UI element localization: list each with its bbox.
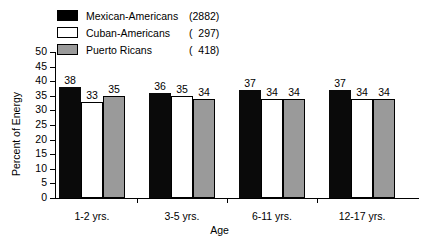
y-axis-tick: 25 — [50, 125, 55, 126]
x-axis-tick — [317, 199, 318, 203]
x-axis-category-label: 12-17 yrs. — [339, 210, 386, 222]
y-axis-tick: 45 — [50, 67, 55, 68]
y-axis-tick-label: 35 — [27, 89, 47, 101]
y-axis-tick: 30 — [50, 110, 55, 111]
bar: 38 — [59, 87, 81, 198]
x-axis-category-label: 1-2 yrs. — [74, 210, 109, 222]
legend-item-cuban-americans: Cuban-Americans ( 297) — [57, 25, 242, 40]
y-axis-tick: 5 — [50, 183, 55, 184]
legend-item-mexican-americans: Mexican-Americans (2882) — [57, 8, 242, 23]
bar-value-label: 34 — [356, 87, 368, 98]
y-axis-tick-label: 10 — [27, 162, 47, 174]
y-axis-tick: 40 — [50, 81, 55, 82]
bar: 33 — [81, 102, 103, 198]
x-axis-tick — [137, 199, 138, 203]
x-axis-tick — [227, 199, 228, 203]
bar: 35 — [171, 96, 193, 198]
legend-label: Cuban-Americans — [86, 27, 189, 39]
bar-chart-figure: Mexican-Americans (2882) Cuban-Americans… — [0, 0, 439, 248]
legend-count: ( 297) — [189, 27, 219, 39]
y-axis-line — [55, 52, 56, 199]
y-axis-tick: 0 — [50, 198, 55, 199]
y-axis-tick-label: 5 — [27, 176, 47, 188]
y-axis-tick: 50 — [50, 52, 55, 53]
y-axis-tick-label: 25 — [27, 118, 47, 130]
x-axis-category-label: 3-5 yrs. — [164, 210, 199, 222]
legend-count: (2882) — [189, 10, 219, 22]
bar-value-label: 34 — [288, 87, 300, 98]
y-axis-tick-label: 20 — [27, 133, 47, 145]
y-axis-tick: 15 — [50, 154, 55, 155]
bar: 34 — [261, 99, 283, 198]
x-axis-title: Age — [0, 224, 439, 236]
bar-value-label: 38 — [64, 75, 76, 86]
bar-value-label: 35 — [108, 84, 120, 95]
bar: 34 — [283, 99, 305, 198]
bar-value-label: 37 — [244, 78, 256, 89]
y-axis-tick: 35 — [50, 96, 55, 97]
bar-value-label: 34 — [378, 87, 390, 98]
bar: 37 — [329, 90, 351, 198]
black-swatch-icon — [57, 10, 78, 21]
y-axis-tick-label: 40 — [27, 74, 47, 86]
bar-value-label: 37 — [334, 78, 346, 89]
y-axis-tick-label: 45 — [27, 60, 47, 72]
bar: 37 — [239, 90, 261, 198]
x-axis-line — [55, 198, 419, 199]
bar: 34 — [193, 99, 215, 198]
x-axis-category-label: 6-11 yrs. — [252, 210, 292, 222]
y-axis-tick: 10 — [50, 169, 55, 170]
bar-value-label: 34 — [198, 87, 210, 98]
y-axis-title: Percent of Energy — [10, 69, 22, 199]
y-axis-tick-label: 30 — [27, 103, 47, 115]
bar-value-label: 36 — [154, 81, 166, 92]
y-axis-tick-label: 15 — [27, 147, 47, 159]
legend-label: Mexican-Americans — [86, 10, 189, 22]
white-swatch-icon — [57, 27, 78, 38]
y-axis-tick-label: 0 — [27, 191, 47, 203]
bar-value-label: 34 — [266, 87, 278, 98]
bar: 34 — [351, 99, 373, 198]
y-axis-tick: 20 — [50, 140, 55, 141]
bar: 34 — [373, 99, 395, 198]
y-axis-tick-label: 50 — [27, 45, 47, 57]
bar: 36 — [149, 93, 171, 198]
bar-value-label: 33 — [86, 90, 98, 101]
bar: 35 — [103, 96, 125, 198]
plot-area: 05101520253035404550 3833353635343734343… — [55, 52, 419, 199]
bar-value-label: 35 — [176, 84, 188, 95]
